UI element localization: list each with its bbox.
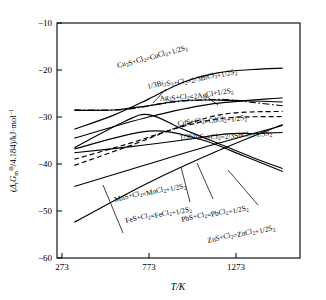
y-tick-label-3: −30 [38, 112, 53, 122]
chart-svg: −10 −20 −30 −40 −50 −60 273 773 1273 T/K… [0, 0, 326, 300]
y-tick-label-6: −60 [38, 253, 53, 263]
x-tick-label-1: 273 [55, 262, 69, 272]
svg-text:(ΔrGm⊖/4.184)/kJ·mol−1: (ΔrGm⊖/4.184)/kJ·mol−1 [8, 109, 20, 192]
y-tick-label-1: −10 [38, 18, 53, 28]
y-axis-title: (ΔrGm⊖/4.184)/kJ·mol−1 [8, 109, 20, 192]
y-tick-label-4: −40 [38, 159, 53, 169]
x-axis-title: T/K [171, 282, 186, 292]
x-tick-label-2: 773 [142, 262, 156, 272]
y-tick-label-2: −20 [38, 65, 53, 75]
y-title-sup: −1 [8, 109, 14, 115]
y-tick-label-5: −50 [38, 206, 53, 216]
x-tick-label-3: 1273 [227, 262, 246, 272]
chart-figure: −10 −20 −30 −40 −50 −60 273 773 1273 T/K… [0, 0, 326, 300]
y-title-divider: /4.184)/kJ·mol [8, 115, 18, 166]
